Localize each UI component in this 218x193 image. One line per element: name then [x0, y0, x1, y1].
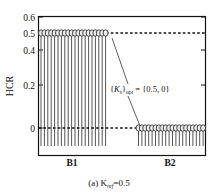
series-b2-markers: [136, 125, 206, 131]
caption-prefix: (a) K: [88, 178, 107, 188]
hcr-stem-chart: 0.6 0.5 0.4 0.2 0 HCR: [0, 0, 218, 193]
y-axis-title: HCR: [4, 75, 15, 96]
caption-tail: =0.5: [113, 178, 130, 188]
ytick-label-0: 0: [30, 124, 35, 134]
annot-value: = {0.5, 0}: [133, 84, 169, 94]
optimal-gain-annotation: {Ks}opt = {0.5, 0}: [110, 84, 170, 95]
ytick-label-0.4: 0.4: [23, 46, 35, 56]
ytick-label-0.2: 0.2: [23, 81, 35, 91]
group-label-b1: B1: [66, 158, 77, 168]
group-label-b2: B2: [164, 158, 175, 168]
series-b1-markers: [39, 30, 109, 36]
ytick-label-0.5: 0.5: [23, 29, 35, 39]
figure-caption: (a) Kref=0.5: [88, 178, 130, 189]
ytick-label-0.6: 0.6: [23, 13, 35, 23]
figure-container: 0.6 0.5 0.4 0.2 0 HCR: [0, 0, 218, 193]
